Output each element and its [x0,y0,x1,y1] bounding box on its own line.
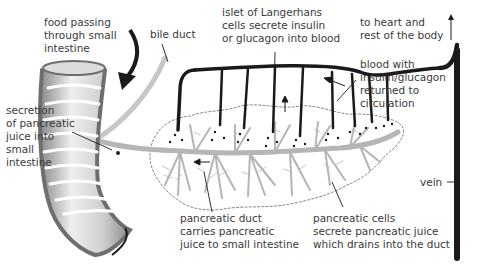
label-food-passing: food passing through small intestine [44,16,117,55]
label-pancreatic-duct: pancreatic duct carries pancreatic juice… [180,212,299,251]
label-pancreatic-cells: pancreatic cells secrete pancreatic juic… [313,212,450,251]
label-vein: vein [420,176,442,189]
label-to-heart: to heart and rest of the body [360,16,443,42]
label-secretion: secretion of pancreatic juice into small… [6,104,75,169]
arrow-up-icon [448,14,454,20]
label-islet-of-langerhans: islet of Langerhans cells secrete insuli… [222,6,340,45]
food-arrow [128,30,137,76]
label-blood-returned: blood with insulin/glucagon returned to … [360,58,446,110]
arrow-head-icon [118,72,136,90]
label-bile-duct: bile duct [150,28,196,41]
